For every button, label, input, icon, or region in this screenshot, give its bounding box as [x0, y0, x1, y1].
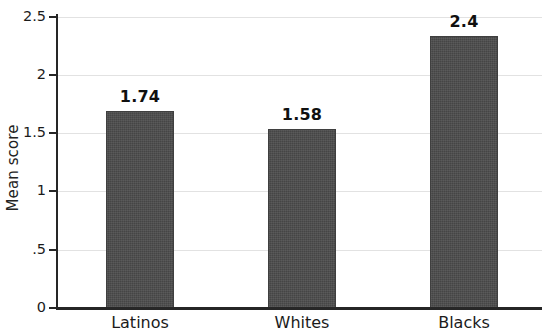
y-tick-label: 2.5 — [0, 8, 46, 24]
y-tick-mark — [49, 74, 56, 76]
y-tick-label: 2 — [0, 66, 46, 82]
y-tick-mark — [49, 249, 56, 251]
y-tick-label: .5 — [0, 241, 46, 257]
bar-whites — [268, 129, 336, 308]
y-tick-mark — [49, 307, 56, 309]
y-tick-mark — [49, 16, 56, 18]
y-axis-title: Mean score — [0, 0, 26, 336]
bar-value-latinos: 1.74 — [106, 87, 174, 106]
bar-chart: Mean score 1.74 1.58 2.4 2.5 2 1.5 1 .5 … — [0, 0, 542, 336]
x-category-label-latinos: Latinos — [90, 313, 190, 332]
y-axis-line — [56, 14, 58, 310]
bar-value-whites: 1.58 — [268, 105, 336, 124]
bar-blacks — [430, 36, 498, 308]
y-tick-mark — [49, 132, 56, 134]
x-category-label-blacks: Blacks — [414, 313, 514, 332]
bar-latinos — [106, 111, 174, 308]
x-category-label-whites: Whites — [252, 313, 352, 332]
y-tick-label: 1 — [0, 182, 46, 198]
y-tick-mark — [49, 190, 56, 192]
bar-value-blacks: 2.4 — [430, 12, 498, 31]
x-axis-line — [56, 307, 542, 310]
y-tick-label: 0 — [0, 299, 46, 315]
y-tick-label: 1.5 — [0, 124, 46, 140]
